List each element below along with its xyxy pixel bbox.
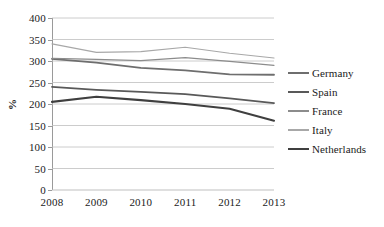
legend-item-france[interactable]: France — [288, 101, 384, 120]
chart-legend: GermanySpainFranceItalyNetherlands — [288, 63, 384, 158]
y-axis-tick-label: 400 — [0, 13, 46, 24]
x-axis-tick-label: 2011 — [174, 196, 196, 208]
x-axis-tick-labels: 200820092010201120122013 — [52, 196, 274, 212]
y-axis-tick-label: 250 — [0, 77, 46, 88]
x-axis-tick-label: 2013 — [263, 196, 286, 208]
y-axis-tick-label: 0 — [0, 185, 46, 196]
series-line-spain — [52, 87, 274, 103]
plot-area — [52, 18, 274, 190]
y-axis-tick-label: 150 — [0, 120, 46, 131]
y-axis-tick-mark — [48, 18, 52, 19]
y-axis-tick-label: 350 — [0, 34, 46, 45]
legend-label: Netherlands — [312, 143, 366, 155]
x-axis-tick-label: 2009 — [85, 196, 108, 208]
legend-line-swatch-icon — [288, 148, 309, 150]
legend-item-germany[interactable]: Germany — [288, 63, 384, 82]
line-chart: 050100150200250300350400 % 2008200920102… — [0, 0, 384, 227]
legend-label: Germany — [312, 67, 354, 79]
y-axis-tick-mark — [48, 169, 52, 170]
x-axis-tick-label: 2008 — [41, 196, 64, 208]
y-axis-tick-label: 50 — [0, 163, 46, 174]
y-axis-tick-mark — [48, 83, 52, 84]
plot-svg — [52, 18, 274, 190]
x-axis-tick-label: 2010 — [129, 196, 152, 208]
legend-line-swatch-icon — [288, 110, 309, 112]
legend-line-swatch-icon — [288, 72, 309, 74]
y-axis-tick-label: 300 — [0, 56, 46, 67]
y-axis-tick-mark — [48, 190, 52, 191]
legend-label: Italy — [312, 124, 333, 136]
legend-label: Spain — [312, 86, 338, 98]
y-axis-title: % — [7, 99, 18, 110]
y-axis-tick-mark — [48, 147, 52, 148]
legend-item-netherlands[interactable]: Netherlands — [288, 139, 384, 158]
y-axis-tick-mark — [48, 61, 52, 62]
legend-line-swatch-icon — [288, 129, 309, 131]
y-axis-tick-mark — [48, 40, 52, 41]
x-axis-tick-label: 2012 — [218, 196, 241, 208]
legend-item-italy[interactable]: Italy — [288, 120, 384, 139]
y-axis-tick-mark — [48, 126, 52, 127]
legend-line-swatch-icon — [288, 91, 309, 93]
legend-item-spain[interactable]: Spain — [288, 82, 384, 101]
series-line-italy — [52, 44, 274, 58]
y-axis-tick-label: 100 — [0, 142, 46, 153]
legend-label: France — [312, 105, 343, 117]
y-axis-tick-mark — [48, 104, 52, 105]
